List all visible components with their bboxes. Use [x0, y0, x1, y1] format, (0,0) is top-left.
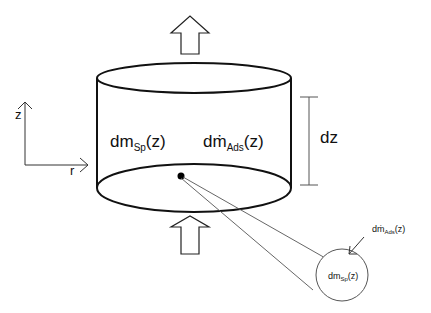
cylinder-top-ellipse — [97, 63, 291, 93]
zoom-lines — [181, 177, 327, 290]
z-axis-label: z — [15, 107, 22, 122]
detail-circle — [316, 249, 368, 301]
control-volume-diagram: z r dz dmSp(z) dṁAds(z) dmSp(z) dṁAds(z) — [0, 0, 431, 313]
incoming-arrow-icon — [349, 237, 364, 254]
axes — [18, 102, 88, 172]
detail-adsorption-rate-label: dṁAds(z) — [372, 224, 405, 235]
upward-flow-arrow-top-icon — [171, 16, 209, 54]
dz-label: dz — [320, 128, 338, 147]
dz-marker — [300, 97, 318, 185]
r-axis-label: r — [70, 163, 75, 178]
spray-mass-label: dmSp(z) — [110, 132, 166, 153]
cylinder-bottom-ellipse — [97, 164, 291, 212]
upward-flow-arrow-bottom-icon — [171, 216, 209, 254]
adsorption-rate-label: dṁAds(z) — [203, 132, 264, 153]
